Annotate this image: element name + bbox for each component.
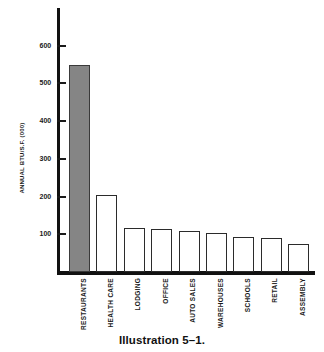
y-axis-tick-label: 400	[17, 117, 51, 124]
x-axis-label-schools: SCHOOLS	[244, 278, 251, 312]
x-axis-label-office: OFFICE	[162, 278, 169, 304]
x-axis-label-warehouses: WAREHOUSES	[217, 278, 224, 328]
y-axis-tick-label: 100	[17, 230, 51, 237]
bar-assembly	[288, 244, 309, 272]
y-axis-tick-mark	[57, 233, 66, 235]
y-axis-tick-mark	[57, 45, 66, 47]
bar-lodging	[124, 228, 145, 273]
x-axis-label-wrap: OFFICE	[155, 278, 169, 336]
x-axis-label-wrap: AUTO SALES	[182, 278, 196, 336]
bar-chart-figure: ANNUAL BTU/S.F. (000) 100200300400500600…	[0, 0, 324, 352]
x-axis-label-health-care: HEALTH CARE	[107, 278, 114, 327]
y-axis-tick-mark	[57, 196, 66, 198]
bar-warehouses	[206, 233, 227, 272]
bar-retail	[261, 238, 282, 272]
x-axis-label-restaurants: RESTAURANTS	[80, 278, 87, 330]
x-axis-label-assembly: ASSEMBLY	[299, 278, 306, 316]
bar-restaurants	[69, 65, 90, 272]
x-axis-label-lodging: LODGING	[134, 278, 141, 310]
x-axis-label-wrap: LODGING	[127, 278, 141, 336]
y-axis-tick-label: 200	[17, 193, 51, 200]
x-axis-label-wrap: WAREHOUSES	[210, 278, 224, 336]
x-axis-label-auto-sales: AUTO SALES	[189, 278, 196, 323]
figure-caption: Illustration 5–1.	[0, 334, 324, 346]
x-axis-label-wrap: SCHOOLS	[237, 278, 251, 336]
bar-auto-sales	[179, 231, 200, 272]
plot-area: 100200300400500600	[57, 8, 317, 275]
bar-health-care	[96, 195, 117, 272]
y-axis-tick-mark	[57, 120, 66, 122]
y-axis-tick-label: 300	[17, 155, 51, 162]
bar-schools	[233, 237, 254, 272]
y-axis-tick-label: 600	[17, 42, 51, 49]
y-axis-tick-label: 500	[17, 79, 51, 86]
x-axis-label-wrap: ASSEMBLY	[292, 278, 306, 336]
x-axis-label-retail: RETAIL	[271, 278, 278, 303]
x-axis-label-wrap: RETAIL	[264, 278, 278, 336]
x-axis-label-wrap: RESTAURANTS	[73, 278, 87, 336]
x-axis-label-wrap: HEALTH CARE	[100, 278, 114, 336]
y-axis-tick-mark	[57, 82, 66, 84]
y-axis-tick-mark	[57, 158, 66, 160]
bar-office	[151, 229, 172, 272]
